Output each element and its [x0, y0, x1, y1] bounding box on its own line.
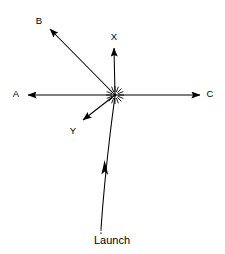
vector-b-shaft: [50, 29, 115, 95]
vector-a: A: [13, 88, 115, 99]
vector-b: B: [36, 15, 115, 95]
vector-x-label: X: [111, 31, 118, 42]
vector-c-label: C: [207, 88, 214, 99]
vector-x: X: [111, 31, 118, 95]
vector-c: C: [115, 88, 214, 99]
vector-y-label: Y: [70, 125, 77, 136]
vector-y-shaft: [83, 95, 115, 120]
vector-diagram: A C X B Y Launch: [0, 0, 225, 254]
figure-root: A C X B Y Launch: [0, 0, 225, 254]
vector-b-label: B: [36, 15, 42, 26]
trajectory-path: [101, 96, 115, 229]
vector-a-label: A: [13, 88, 20, 99]
launch-label: Launch: [94, 234, 130, 246]
launch-trajectory: Launch: [94, 96, 130, 246]
burst-icon: [106, 86, 124, 104]
vector-y: Y: [70, 95, 115, 136]
